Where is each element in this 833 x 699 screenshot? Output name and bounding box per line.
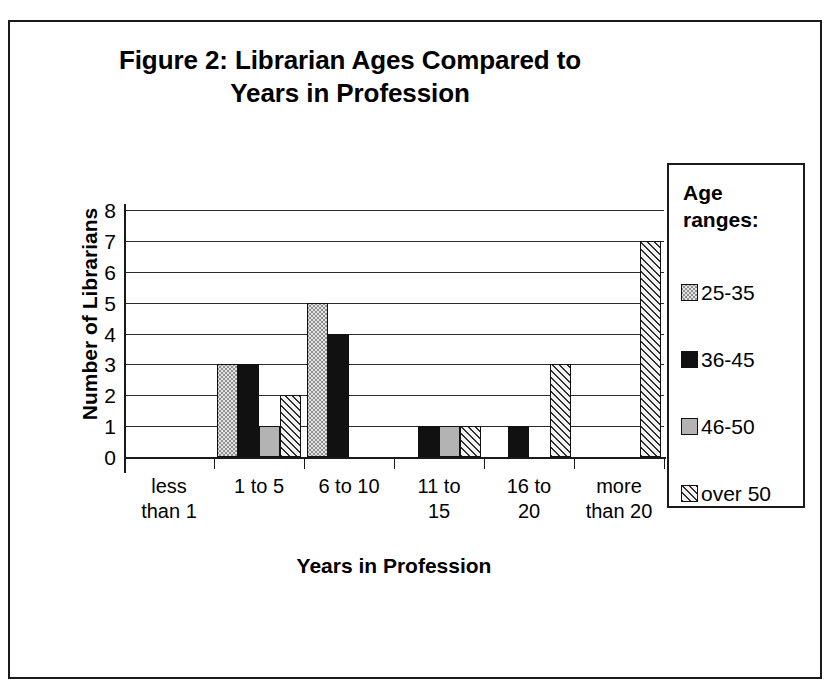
bar[interactable] [280,395,301,457]
legend-swatch-icon [681,284,698,301]
legend-box: Age ranges: 25-3536-4546-50over 50 [667,163,805,508]
figure-frame: Figure 2: Librarian Ages Compared to Yea… [8,20,822,679]
legend-item[interactable]: over 50 [681,460,797,527]
x-axis-tick-label: less than 1 [124,474,214,524]
plot-area [124,210,664,457]
bar-group [484,210,574,457]
y-axis-line [124,204,126,473]
x-axis-tick-labels: less than 11 to 56 to 1011 to 1516 to 20… [124,474,664,536]
legend-item-label: over 50 [701,483,771,504]
y-axis-tick-label: 1 [90,416,116,437]
bar[interactable] [460,426,481,457]
y-axis-tick-label: 6 [90,261,116,282]
bar-group [124,210,214,457]
legend-item-label: 46-50 [701,416,755,437]
x-axis-tick [124,457,125,469]
legend-item-label: 25-35 [701,282,755,303]
bar-group [304,210,394,457]
x-axis-tick-label: 11 to 15 [394,474,484,524]
legend-item-label: 36-45 [701,349,755,370]
x-axis-tick-label: 1 to 5 [214,474,304,499]
bar[interactable] [259,426,280,457]
y-axis-tick-label: 8 [90,200,116,221]
x-axis-tick [664,457,665,469]
legend-item[interactable]: 46-50 [681,393,797,460]
x-axis-tick [214,457,215,469]
legend-item[interactable]: 36-45 [681,326,797,393]
bar[interactable] [640,241,661,457]
bar-group [574,210,664,457]
bar-row [484,210,574,457]
bar-row [394,210,484,457]
x-axis-tick [574,457,575,469]
x-axis-tick [394,457,395,469]
legend-items: 25-3536-4546-50over 50 [681,259,797,527]
x-axis-tick-label: 16 to 20 [484,474,574,524]
y-axis-tick-label: 2 [90,385,116,406]
bar-row [214,210,304,457]
chart-title: Figure 2: Librarian Ages Compared to Yea… [50,44,650,111]
bar-group [394,210,484,457]
y-axis-tick-label: 3 [90,354,116,375]
bar-row [124,210,214,457]
bar[interactable] [550,364,571,457]
plot-inner [124,210,664,457]
x-axis-tick [304,457,305,469]
x-axis-tick-label: 6 to 10 [304,474,394,499]
legend-item[interactable]: 25-35 [681,259,797,326]
bar-row [304,210,394,457]
bar[interactable] [439,426,460,457]
legend-title: Age ranges: [683,179,759,234]
bar[interactable] [418,426,439,457]
x-axis-title: Years in Profession [124,554,664,578]
x-axis-tick-label: more than 20 [574,474,664,524]
x-axis-tick [484,457,485,469]
bar[interactable] [217,364,238,457]
bar[interactable] [328,334,349,458]
legend-swatch-icon [681,418,698,435]
y-axis-tick-label: 5 [90,292,116,313]
bar[interactable] [508,426,529,457]
y-axis-tick-label: 4 [90,323,116,344]
y-axis-tick-labels: 012345678 [88,210,116,457]
legend-swatch-icon [681,485,698,502]
bar-row [574,210,664,457]
bar[interactable] [307,303,328,457]
x-axis-line [124,457,666,459]
y-axis-tick-label: 7 [90,230,116,251]
y-axis-tick-label: 0 [90,447,116,468]
bar-group [214,210,304,457]
legend-swatch-icon [681,351,698,368]
bar[interactable] [238,364,259,457]
